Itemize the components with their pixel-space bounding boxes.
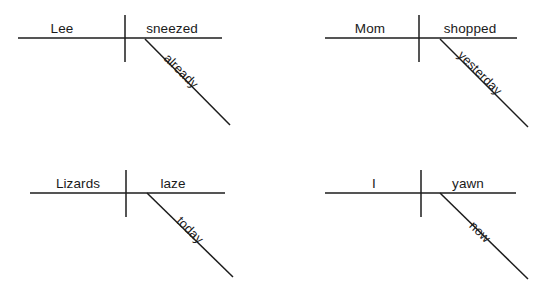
verb-label-3: laze — [160, 176, 185, 191]
sentence-diagram-board: Lee sneezed already Mom shopped yesterda… — [0, 0, 548, 291]
sentence-diagram-1: Lee sneezed already — [18, 15, 230, 125]
modifier-label-3: today — [174, 213, 207, 246]
sentence-diagram-2: Mom shopped yesterday — [325, 15, 528, 127]
subject-label-2: Mom — [355, 21, 385, 36]
verb-label-2: shopped — [444, 21, 497, 36]
subject-label-3: Lizards — [56, 176, 100, 191]
sentence-diagram-3: Lizards laze today — [30, 170, 233, 277]
subject-label-1: Lee — [51, 21, 74, 36]
modifier-label-2: yesterday — [455, 48, 506, 99]
subject-label-4: I — [372, 176, 376, 191]
verb-label-4: yawn — [452, 176, 484, 191]
modifier-label-1: already — [161, 50, 202, 91]
sentence-diagram-canvas: Lee sneezed already Mom shopped yesterda… — [0, 0, 548, 291]
sentence-diagram-4: I yawn now — [325, 170, 528, 279]
verb-label-1: sneezed — [146, 21, 198, 36]
